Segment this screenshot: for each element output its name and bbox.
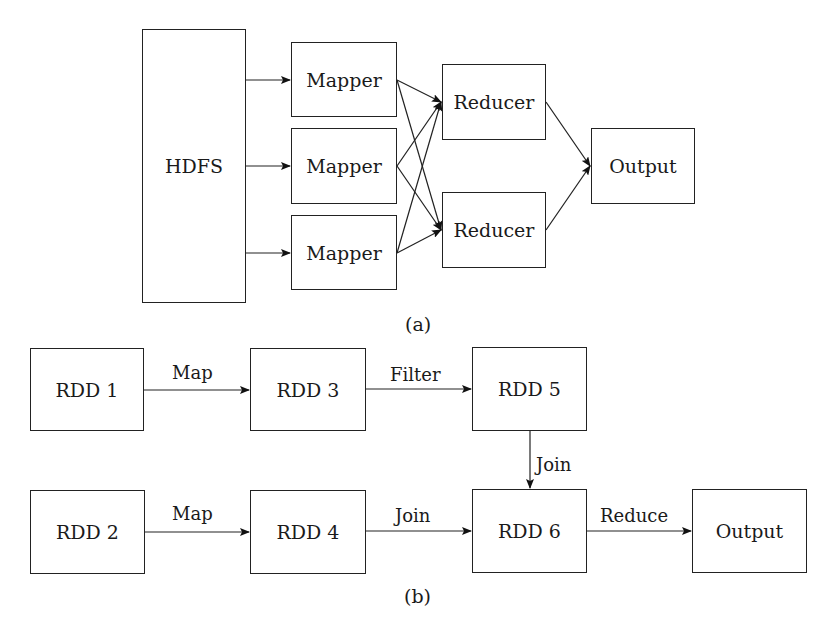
mapper-label: Mapper [306,155,381,177]
mapper-label: Mapper [306,242,381,264]
reducer-node-2: Reducer [442,192,546,268]
rdd4-node: RDD 4 [250,490,366,574]
edge-label-map-1: Map [172,362,213,383]
rdd1-node: RDD 1 [30,348,144,431]
rdd2-label: RDD 2 [56,521,119,543]
mapper-node-1: Mapper [291,42,397,117]
rdd3-node: RDD 3 [250,348,366,431]
mapreduce-output-node: Output [591,128,695,204]
rdd5-node: RDD 5 [472,347,587,431]
caption-a: (a) [405,313,431,335]
rdd6-node: RDD 6 [472,489,587,573]
mapper-label: Mapper [306,69,381,91]
rdd4-label: RDD 4 [277,521,340,543]
spark-output-node: Output [692,489,807,573]
edge-label-reduce: Reduce [600,505,668,526]
output-label: Output [716,520,783,542]
mapper-node-3: Mapper [291,215,397,290]
rdd1-label: RDD 1 [56,379,119,401]
edge-label-join: Join [395,505,430,526]
edge-label-join-vertical: Join [536,454,571,475]
rdd5-label: RDD 5 [498,378,561,400]
reducer-label: Reducer [454,219,535,241]
edge-label-map-2: Map [172,503,213,524]
rdd2-node: RDD 2 [30,490,145,574]
rdd3-label: RDD 3 [277,379,340,401]
output-label: Output [609,155,676,177]
reducer-node-1: Reducer [442,64,546,140]
edge-label-filter: Filter [390,364,441,385]
hdfs-label: HDFS [165,155,223,177]
hdfs-node: HDFS [142,29,246,303]
reducer-label: Reducer [454,91,535,113]
caption-b: (b) [404,585,431,607]
mapper-node-2: Mapper [291,128,397,204]
rdd6-label: RDD 6 [498,520,561,542]
